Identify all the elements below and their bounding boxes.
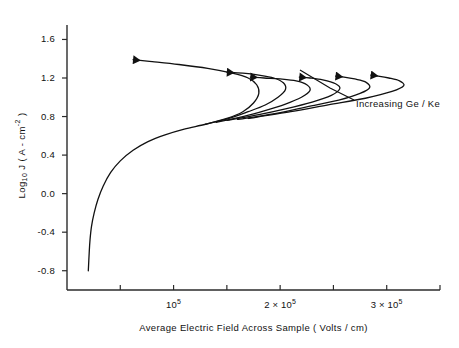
y-tick-label: -0.4: [25, 226, 55, 237]
x-tick-label: 3 × 105: [371, 299, 403, 310]
x-tick-mantissa: 3 × 10: [371, 299, 399, 310]
x-axis-title: Average Electric Field Across Sample ( V…: [67, 322, 440, 333]
data-curves: [88, 60, 404, 271]
y-axis-title-superscript: -2: [14, 119, 21, 126]
y-axis-title-prefix: Log: [16, 181, 27, 198]
y-tick-label: 0.8: [25, 111, 55, 122]
x-tick-exponent: 5: [177, 298, 181, 305]
x-tick-label: 105: [166, 299, 181, 310]
figure-container: 1.61.20.80.40.0-0.4-0.8 1052 × 1053 × 10…: [0, 0, 459, 348]
x-tick-exponent: 5: [292, 298, 296, 305]
y-axis-ticks: [62, 39, 67, 270]
increasing-ratio-annotation: Increasing Ge / Ke: [356, 98, 440, 109]
y-tick-label: 0.0: [25, 188, 55, 199]
x-tick-label: 2 × 105: [264, 299, 296, 310]
y-tick-label: 1.6: [25, 33, 55, 44]
x-tick-mantissa: 10: [166, 299, 177, 310]
y-axis-title-subscript: 10: [21, 173, 28, 182]
y-axis-title-tail: ): [16, 113, 27, 120]
y-axis-title: Log10 J ( A - cm-2 ): [16, 71, 27, 241]
x-tick-mantissa: 2 × 10: [264, 299, 292, 310]
y-tick-label: -0.8: [25, 265, 55, 276]
x-tick-exponent: 5: [399, 298, 403, 305]
x-axis-ticks: [120, 285, 440, 290]
y-axis-title-suffix: J ( A - cm: [16, 126, 27, 173]
chart-plot-area: [0, 0, 459, 348]
y-tick-label: 1.2: [25, 72, 55, 83]
y-tick-label: 0.4: [25, 149, 55, 160]
curve-curve-1: [88, 60, 259, 271]
